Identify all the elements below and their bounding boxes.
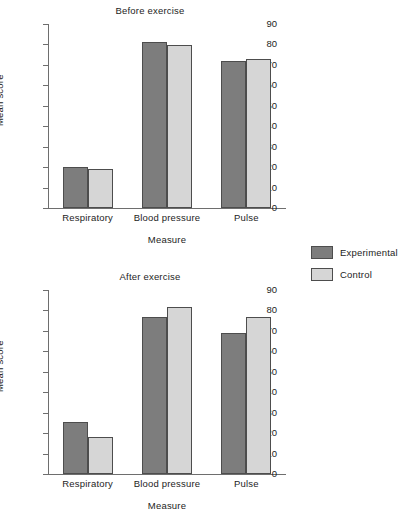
y-axis-tick <box>43 126 48 127</box>
y-axis-tick <box>43 351 48 352</box>
legend-item-experimental: Experimental <box>311 246 415 259</box>
x-axis-label: Measure <box>48 234 286 245</box>
y-axis-label: Mean score <box>0 340 5 392</box>
y-axis-tick-label: 80 <box>251 39 277 49</box>
bar-experimental <box>221 61 246 208</box>
y-axis-tick <box>43 372 48 373</box>
bar-control <box>246 59 271 208</box>
legend-item-label: Control <box>340 269 372 280</box>
bar-control <box>88 169 113 208</box>
y-axis-tick <box>43 24 48 25</box>
x-axis-label: Measure <box>48 500 286 511</box>
x-axis-category-label: Blood pressure <box>127 478 206 489</box>
plot-area: 0102030405060708090 <box>48 290 286 474</box>
figure-bar-charts: Before exercise Mean score 0102030405060… <box>0 0 415 526</box>
y-axis-tick <box>43 167 48 168</box>
x-axis-category-label: Pulse <box>207 212 286 223</box>
y-axis-tick-label: 90 <box>251 19 277 29</box>
bar-control <box>246 317 271 474</box>
legend-item-control: Control <box>311 268 415 281</box>
bar-experimental <box>63 167 88 208</box>
y-axis-tick <box>43 188 48 189</box>
bar-control <box>88 437 113 474</box>
y-axis-tick <box>43 85 48 86</box>
chart-panel-before-exercise: Before exercise Mean score 0102030405060… <box>0 2 300 252</box>
y-axis-tick <box>43 413 48 414</box>
y-axis-tick <box>43 433 48 434</box>
bar-experimental <box>63 422 88 474</box>
x-axis-category-label: Respiratory <box>48 212 127 223</box>
x-axis-category-label: Pulse <box>207 478 286 489</box>
bar-control <box>167 307 192 474</box>
y-axis-tick <box>43 310 48 311</box>
x-axis-category-label: Respiratory <box>48 478 127 489</box>
legend-swatch-icon <box>311 246 333 259</box>
y-axis-tick <box>43 208 48 209</box>
bar-experimental <box>142 42 167 208</box>
y-axis-label: Mean score <box>0 74 5 126</box>
y-axis-tick-label: 80 <box>251 305 277 315</box>
y-axis-tick <box>43 290 48 291</box>
y-axis-tick <box>43 65 48 66</box>
chart-title: After exercise <box>0 271 300 282</box>
bar-control <box>167 45 192 208</box>
legend-item-label: Experimental <box>340 247 398 258</box>
y-axis-tick-label: 90 <box>251 285 277 295</box>
x-axis-category-label: Blood pressure <box>127 212 206 223</box>
y-axis-tick <box>43 331 48 332</box>
plot-area: 0102030405060708090 <box>48 24 286 208</box>
chart-panel-after-exercise: After exercise Mean score 01020304050607… <box>0 268 300 518</box>
y-axis-tick <box>43 474 48 475</box>
y-axis-tick <box>43 147 48 148</box>
y-axis-tick <box>43 106 48 107</box>
y-axis-tick <box>43 392 48 393</box>
legend: Experimental Control <box>311 246 415 290</box>
bar-experimental <box>142 317 167 474</box>
bar-experimental <box>221 333 246 474</box>
y-axis-tick <box>43 44 48 45</box>
y-axis-tick <box>43 454 48 455</box>
chart-title: Before exercise <box>0 5 300 16</box>
legend-swatch-icon <box>311 268 333 281</box>
